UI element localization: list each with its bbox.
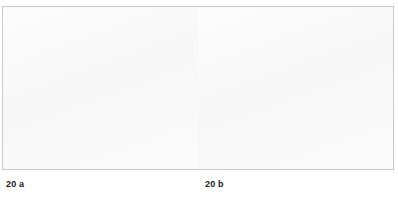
panel-a-background (3, 7, 198, 169)
caption-panel-a: 20 a (6, 179, 24, 189)
anatomical-figure: 20 a 20 b (0, 0, 398, 198)
figure-frame (2, 6, 394, 170)
panel-frontal-skull (3, 7, 198, 169)
caption-panel-b: 20 b (205, 179, 224, 189)
panel-b-background (198, 7, 393, 169)
panel-lateral-skull (198, 7, 393, 169)
